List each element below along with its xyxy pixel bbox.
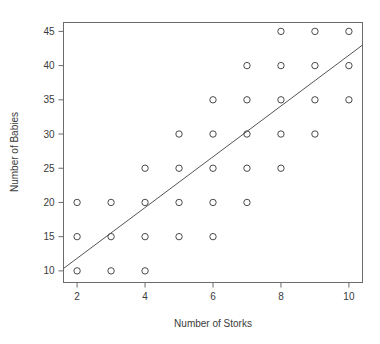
scatter-plot: 246810 1015202530354045 Number of Storks… bbox=[0, 0, 380, 344]
data-point bbox=[108, 199, 114, 205]
data-point bbox=[278, 97, 284, 103]
plot-box bbox=[64, 23, 363, 283]
x-axis-title: Number of Storks bbox=[174, 318, 252, 329]
data-point bbox=[142, 233, 148, 239]
data-point bbox=[244, 97, 250, 103]
data-point bbox=[244, 62, 250, 68]
data-point bbox=[210, 233, 216, 239]
data-point bbox=[176, 233, 182, 239]
data-point bbox=[346, 62, 352, 68]
y-tick-label: 25 bbox=[43, 163, 55, 174]
y-tick-label: 20 bbox=[43, 197, 55, 208]
data-point bbox=[278, 62, 284, 68]
data-point bbox=[74, 199, 80, 205]
data-point bbox=[278, 28, 284, 34]
data-point bbox=[142, 165, 148, 171]
data-point bbox=[278, 165, 284, 171]
data-point bbox=[312, 62, 318, 68]
y-tick-label: 45 bbox=[43, 26, 55, 37]
x-tick-label: 6 bbox=[210, 291, 216, 302]
data-point bbox=[278, 131, 284, 137]
data-point bbox=[142, 268, 148, 274]
y-tick-label: 10 bbox=[43, 265, 55, 276]
data-point bbox=[244, 165, 250, 171]
data-point bbox=[210, 165, 216, 171]
x-tick-labels: 246810 bbox=[74, 291, 355, 302]
y-tick-label: 30 bbox=[43, 129, 55, 140]
y-tick-label: 15 bbox=[43, 231, 55, 242]
data-point bbox=[108, 233, 114, 239]
x-tick-label: 2 bbox=[74, 291, 80, 302]
data-point bbox=[176, 199, 182, 205]
y-axis-ticks bbox=[59, 31, 64, 270]
data-point bbox=[74, 268, 80, 274]
data-points bbox=[74, 28, 352, 274]
data-point bbox=[74, 233, 80, 239]
data-point bbox=[176, 131, 182, 137]
data-point bbox=[210, 97, 216, 103]
data-point bbox=[210, 131, 216, 137]
y-axis-title: Number of Babies bbox=[9, 112, 20, 192]
plot-frame bbox=[64, 23, 363, 283]
data-point bbox=[312, 28, 318, 34]
data-point bbox=[312, 131, 318, 137]
data-point bbox=[108, 268, 114, 274]
data-point bbox=[142, 199, 148, 205]
chart-container: 246810 1015202530354045 Number of Storks… bbox=[0, 0, 380, 344]
y-tick-labels: 1015202530354045 bbox=[43, 26, 55, 276]
x-tick-label: 8 bbox=[278, 291, 284, 302]
data-point bbox=[244, 199, 250, 205]
data-point bbox=[210, 199, 216, 205]
data-point bbox=[176, 165, 182, 171]
y-tick-label: 35 bbox=[43, 94, 55, 105]
data-point bbox=[346, 97, 352, 103]
x-tick-label: 10 bbox=[343, 291, 355, 302]
x-axis-ticks bbox=[77, 283, 349, 288]
data-point bbox=[312, 97, 318, 103]
data-point bbox=[346, 28, 352, 34]
x-tick-label: 4 bbox=[142, 291, 148, 302]
y-tick-label: 40 bbox=[43, 60, 55, 71]
